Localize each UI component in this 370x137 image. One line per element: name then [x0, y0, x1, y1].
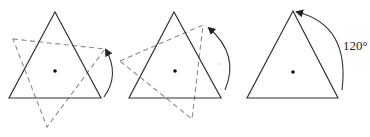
panel-2 — [120, 12, 230, 119]
original-triangle — [9, 12, 101, 98]
panel-1 — [9, 12, 113, 127]
rotation-arrow-icon — [104, 50, 113, 97]
center-point — [291, 70, 295, 74]
panel-3: 120° — [247, 11, 368, 98]
rotated-triangle-dashed — [13, 39, 105, 127]
angle-label: 120° — [343, 38, 368, 53]
original-triangle — [129, 12, 221, 98]
rotated-triangle-dashed — [120, 25, 203, 119]
faint-marker-dot — [218, 63, 220, 65]
center-point — [173, 69, 177, 73]
triangle-rotation-diagram: 120° — [0, 0, 370, 137]
center-point — [53, 69, 57, 73]
rotated-triangle-final — [247, 11, 338, 98]
rotation-arrow-icon — [297, 12, 343, 90]
